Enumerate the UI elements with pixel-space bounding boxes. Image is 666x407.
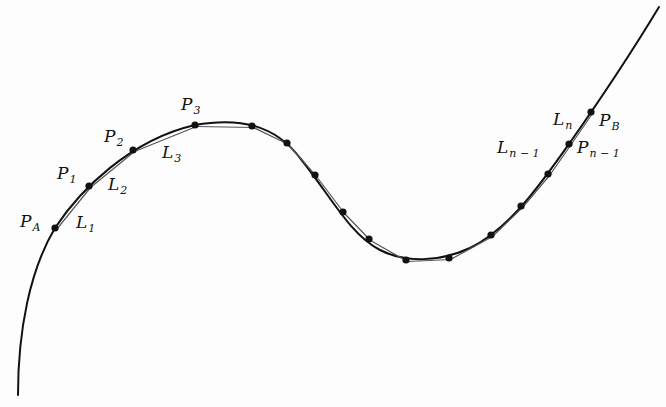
chord-segment — [317, 177, 345, 214]
label-p2: P2 — [104, 128, 123, 148]
point-p11 — [487, 231, 494, 238]
point-p7 — [339, 208, 346, 215]
curve-chord-diagram: PA L1 P1 L2 P2 L3 P3 Ln PB Ln − 1 Pn − 1 — [0, 0, 666, 407]
chord-segment — [550, 146, 571, 176]
chord-segment — [197, 127, 254, 128]
label-p1: P1 — [57, 165, 76, 185]
chord-segment — [523, 176, 550, 208]
point-p10 — [445, 254, 452, 261]
chord-segment — [451, 237, 493, 260]
chord-segment — [371, 241, 408, 262]
point-p9 — [402, 256, 409, 263]
label-l1: L1 — [76, 214, 95, 234]
point-p3 — [191, 121, 198, 128]
chord-segment — [289, 145, 317, 177]
label-p3: P3 — [181, 96, 200, 116]
smooth-curve — [18, 7, 659, 395]
point-p5 — [283, 139, 290, 146]
point-p1 — [85, 182, 92, 189]
point-p4 — [248, 122, 255, 129]
label-p-a: PA — [20, 213, 40, 233]
label-ln: Ln — [553, 111, 572, 131]
chord-segment — [493, 208, 523, 237]
chord-segment — [254, 128, 289, 145]
point-p-n-1 — [565, 140, 572, 147]
label-p-n-minus-1: Pn − 1 — [577, 139, 620, 159]
point-p8 — [365, 235, 372, 242]
point-p-b — [587, 108, 594, 115]
label-p-b: PB — [599, 112, 620, 132]
point-p6 — [311, 171, 318, 178]
point-p12 — [517, 202, 524, 209]
point-p13 — [544, 170, 551, 177]
label-l-n-minus-1: Ln − 1 — [497, 139, 540, 159]
point-p2 — [129, 146, 136, 153]
chord-segments — [57, 114, 593, 262]
diagram-svg — [0, 0, 666, 407]
label-l3: L3 — [162, 144, 181, 164]
point-p-a — [51, 224, 58, 231]
label-l2: L2 — [108, 176, 127, 196]
